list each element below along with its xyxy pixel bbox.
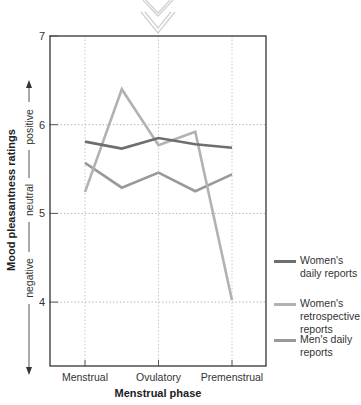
y-scale-indicator: positive neutral negative <box>23 80 35 375</box>
x-tick-label: Premenstrual <box>201 371 263 383</box>
y-axis-title: Mood pleasantness ratings <box>5 129 17 271</box>
y-tick-label: 4 <box>39 296 45 308</box>
legend-label: Men's daily reports <box>300 333 361 359</box>
arrow-down-icon <box>26 367 32 375</box>
legend-swatch <box>274 303 296 306</box>
legend-swatch <box>274 260 296 263</box>
y-tick-label: 7 <box>39 30 45 42</box>
y-axis-ticks: 4567 <box>39 30 58 308</box>
legend-item-womens-retrospective: Women's retrospective reports <box>274 297 361 337</box>
legend-swatch <box>274 339 296 342</box>
legend-label: Women's daily reports <box>300 254 361 280</box>
legend-label: Women's retrospective reports <box>300 297 361 336</box>
legend-item-mens-daily: Men's daily reports <box>274 333 361 363</box>
y-tick-label: 6 <box>39 119 45 131</box>
scale-label-neutral: neutral <box>23 184 35 216</box>
scale-label-negative: negative <box>23 258 35 298</box>
legend-item-womens-daily: Women's daily reports <box>274 254 361 294</box>
gridlines <box>50 36 266 366</box>
arrow-up-icon <box>26 80 32 88</box>
x-tick-label: Menstrual <box>62 371 108 383</box>
chevron-down-icon <box>141 0 175 33</box>
y-tick-label: 5 <box>39 207 45 219</box>
scale-label-positive: positive <box>23 109 35 145</box>
x-axis-title: Menstrual phase <box>115 387 202 399</box>
x-tick-label: Ovulatory <box>136 371 182 383</box>
x-axis-ticks: MenstrualOvulatoryPremenstrual <box>62 360 263 383</box>
